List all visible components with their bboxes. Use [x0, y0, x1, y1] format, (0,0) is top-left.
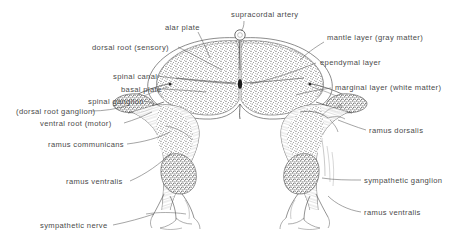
leader-ramus-dorsalis [338, 120, 366, 130]
label-ramus-communicans: ramus communicans [48, 140, 124, 150]
label-spinal-canal: spinal canal [113, 72, 157, 82]
label-ramus-ventralis-left: ramus ventralis [66, 177, 123, 187]
label-marginal-layer: marginal layer (white matter) [335, 83, 441, 93]
anatomical-figure: alar plate supracordal artery mantle lay… [0, 0, 476, 251]
leader-symp-ganglion [322, 178, 361, 180]
label-basal-plate: basal plate [121, 85, 162, 95]
leader-supracordal-artery [241, 21, 244, 31]
label-ventral-root: ventral root (motor) [40, 119, 112, 129]
label-mantle-layer: mantle layer (gray matter) [327, 33, 423, 43]
label-alar-plate: alar plate [165, 23, 200, 33]
leader-ramus-ventralis-r [328, 196, 361, 212]
label-sympathetic-nerve: sympathetic nerve [40, 221, 108, 231]
leader-symp-nerve [113, 214, 154, 225]
label-dorsal-root: dorsal root (sensory) [92, 43, 169, 53]
label-ramus-dorsalis: ramus dorsalis [369, 126, 423, 136]
label-supracordal-artery: supracordal artery [231, 10, 299, 20]
label-sympathetic-ganglion: sympathetic ganglion [364, 176, 442, 186]
label-dorsal-root-ganglion: (dorsal root ganglion) [16, 107, 95, 117]
label-ependymal-layer: ependymal layer [320, 58, 381, 68]
central-canal [238, 79, 242, 89]
label-spinal-ganglion: spinal ganglion [88, 97, 144, 107]
label-ramus-ventralis-right: ramus ventralis [364, 208, 421, 218]
